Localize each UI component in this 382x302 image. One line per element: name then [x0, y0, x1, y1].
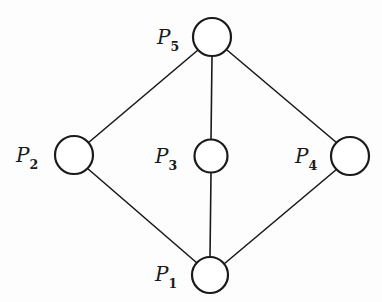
edge-p5-p2	[88, 50, 198, 143]
node-circle-p4[interactable]	[331, 137, 369, 175]
node-label-p2-subscript: 2	[29, 157, 38, 172]
node-circle-p3[interactable]	[195, 140, 228, 173]
node-circle-p5[interactable]	[193, 18, 231, 56]
edge-p5-p4	[227, 50, 337, 143]
node-label-p5-subscript: 5	[170, 39, 179, 54]
node-circle-p2[interactable]	[55, 136, 93, 174]
node-label-p3-subscript: 3	[168, 158, 177, 173]
node-label-p4-base: P	[295, 144, 308, 168]
edge-p4-p1	[224, 169, 337, 264]
diagram-canvas: P5 P2 P3 P4 P1	[0, 0, 382, 302]
node-circle-p1[interactable]	[192, 257, 228, 293]
node-label-p4-subscript: 4	[308, 158, 317, 173]
graph-svg	[0, 0, 382, 302]
node-label-p2: P2	[16, 145, 38, 170]
node-label-p1: P1	[155, 264, 177, 289]
node-label-p2-base: P	[16, 143, 29, 167]
node-label-p1-subscript: 1	[168, 276, 177, 291]
node-label-p5: P5	[157, 27, 179, 52]
edge-p5-p3	[211, 56, 212, 140]
edge-p2-p1	[87, 168, 197, 263]
node-label-p1-base: P	[155, 262, 168, 286]
edge-p3-p1	[210, 173, 211, 257]
node-label-p3-base: P	[155, 144, 168, 168]
node-label-p4: P4	[295, 146, 317, 171]
node-label-p3: P3	[155, 146, 177, 171]
node-label-p5-base: P	[157, 25, 170, 49]
